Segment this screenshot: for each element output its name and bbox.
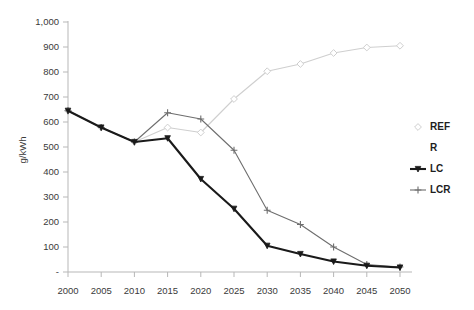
chart-legend: REFRLCLCR bbox=[410, 121, 451, 195]
data-point-marker bbox=[397, 42, 404, 49]
series-ref bbox=[65, 42, 404, 145]
legend-label: REF bbox=[430, 121, 450, 132]
legend-item-lc[interactable]: LC bbox=[410, 163, 443, 174]
x-tick-label: 2045 bbox=[356, 285, 377, 296]
x-tick-label: 2010 bbox=[124, 285, 145, 296]
data-point-marker bbox=[264, 207, 271, 214]
legend-label: LCR bbox=[430, 184, 451, 195]
y-tick-label: 600 bbox=[43, 116, 59, 127]
series-lc bbox=[65, 108, 403, 270]
series-line bbox=[68, 111, 400, 268]
y-tick-label: 100 bbox=[43, 241, 59, 252]
data-point-marker bbox=[415, 124, 422, 131]
legend-label: LC bbox=[430, 163, 443, 174]
data-point-marker bbox=[297, 61, 304, 68]
series-layer bbox=[65, 42, 404, 270]
x-tick-label: 2030 bbox=[257, 285, 278, 296]
series-lcr bbox=[65, 107, 404, 270]
x-tick-label: 2040 bbox=[323, 285, 344, 296]
legend-label: R bbox=[430, 142, 438, 153]
emissions-line-chart: -1002003004005006007008009001,000 200020… bbox=[0, 0, 474, 310]
x-axis: 2000200520102015202020252030203520402045… bbox=[57, 272, 412, 296]
y-axis-title: g/kWh bbox=[17, 137, 28, 164]
legend-item-r[interactable]: R bbox=[430, 142, 438, 153]
y-axis: -1002003004005006007008009001,000 bbox=[35, 16, 68, 277]
y-tick-label: 200 bbox=[43, 216, 59, 227]
y-tick-label: - bbox=[56, 266, 59, 277]
x-tick-label: 2035 bbox=[290, 285, 311, 296]
x-tick-label: 2025 bbox=[223, 285, 244, 296]
series-line bbox=[68, 46, 400, 142]
legend-item-ref[interactable]: REF bbox=[415, 121, 450, 132]
y-tick-label: 1,000 bbox=[35, 16, 59, 27]
x-tick-label: 2050 bbox=[389, 285, 410, 296]
data-point-marker bbox=[415, 187, 422, 194]
data-point-marker bbox=[330, 50, 337, 57]
x-tick-label: 2015 bbox=[157, 285, 178, 296]
y-tick-label: 400 bbox=[43, 166, 59, 177]
y-tick-label: 300 bbox=[43, 191, 59, 202]
data-point-marker bbox=[164, 124, 171, 131]
y-tick-label: 800 bbox=[43, 66, 59, 77]
x-tick-label: 2020 bbox=[190, 285, 211, 296]
y-tick-label: 700 bbox=[43, 91, 59, 102]
data-point-marker bbox=[363, 44, 370, 51]
data-point-marker bbox=[297, 221, 304, 228]
legend-item-lcr[interactable]: LCR bbox=[410, 184, 451, 195]
data-point-marker bbox=[330, 244, 337, 251]
x-tick-label: 2000 bbox=[57, 285, 78, 296]
y-tick-label: 500 bbox=[43, 141, 59, 152]
x-tick-label: 2005 bbox=[91, 285, 112, 296]
y-tick-label: 900 bbox=[43, 41, 59, 52]
y-axis-label: g/kWh bbox=[17, 137, 28, 164]
chart-container: -1002003004005006007008009001,000 200020… bbox=[0, 0, 474, 310]
